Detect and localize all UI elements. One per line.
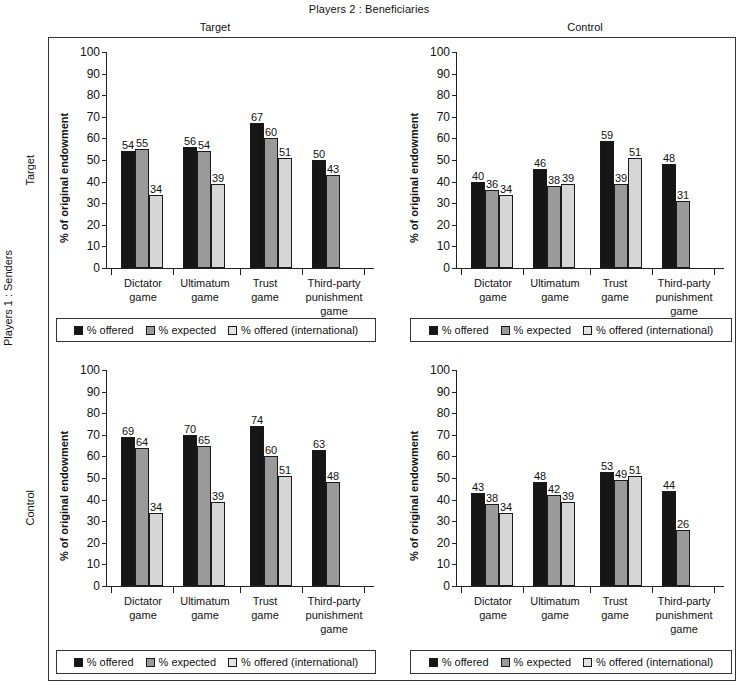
- bar-value-label: 70: [184, 423, 196, 435]
- bar: 40: [471, 182, 485, 268]
- bar-value-label: 34: [500, 183, 512, 195]
- bar: 34: [499, 513, 513, 586]
- legend-swatch-icon: [583, 326, 592, 335]
- bar: 64: [135, 448, 149, 586]
- bar: 39: [211, 502, 225, 586]
- legend-item: % offered (international): [228, 656, 358, 668]
- y-tick-label: 0: [93, 578, 100, 594]
- y-tick-label: 40: [87, 492, 100, 508]
- x-tick-mark: [302, 587, 303, 593]
- y-tick-label: 50: [437, 470, 450, 486]
- bar-set: 545534: [121, 52, 163, 268]
- x-tick-label-word: game: [601, 291, 629, 303]
- x-tick-mark: [364, 587, 365, 593]
- figure-side-title: Players 1 : Senders: [2, 250, 14, 346]
- y-tick-label: 50: [437, 152, 450, 168]
- column-header-target: Target: [120, 21, 310, 33]
- panel-control-target: % of original endowment10090807060504030…: [56, 360, 386, 660]
- y-tick-label: 10: [437, 556, 450, 572]
- y-tick-label: 90: [87, 66, 100, 82]
- legend-target-target: % offered% expected% offered (internatio…: [56, 318, 376, 342]
- bar: 42: [547, 495, 561, 586]
- bar: 63: [312, 450, 326, 586]
- legend-swatch-icon: [74, 326, 83, 335]
- legend-swatch-icon: [501, 658, 510, 667]
- y-tick-label: 80: [87, 405, 100, 421]
- bar-value-label: 50: [313, 148, 325, 160]
- plot-area: 1009080706050403020100545534565439676051…: [106, 52, 374, 277]
- legend-label: % offered (international): [596, 656, 713, 668]
- y-tick-label: 20: [437, 535, 450, 551]
- bar-groups: 5455345654396760515043: [107, 52, 374, 268]
- bar: 51: [278, 158, 292, 268]
- x-tick-mark: [461, 587, 462, 593]
- bar: 65: [197, 446, 211, 586]
- x-tick-label-word: game: [541, 291, 569, 303]
- x-tick-label-word: game: [320, 305, 348, 317]
- x-tick-mark: [714, 269, 715, 275]
- y-tick-label: 0: [93, 260, 100, 276]
- legend-swatch-icon: [583, 658, 592, 667]
- bar: 74: [250, 426, 264, 586]
- bar-value-label: 38: [548, 174, 560, 186]
- x-tick-mark: [364, 269, 365, 275]
- bar-value-label: 39: [562, 490, 574, 502]
- y-tick-label: 60: [437, 130, 450, 146]
- legend-label: % offered (international): [241, 324, 358, 336]
- legend-swatch-icon: [228, 658, 237, 667]
- row-header-control: Control: [24, 490, 36, 525]
- y-tick-label: 80: [437, 87, 450, 103]
- bar: 54: [197, 151, 211, 268]
- bar: 34: [149, 195, 163, 268]
- y-tick-label: 70: [87, 109, 100, 125]
- x-tick-label-word: Trust: [253, 595, 278, 607]
- bar: 34: [149, 513, 163, 586]
- bar: 38: [485, 504, 499, 586]
- bar-value-label: 74: [251, 414, 263, 426]
- x-tick-label-word: game: [129, 291, 157, 303]
- bar: 67: [250, 123, 264, 268]
- x-tick-label-word: Dictator: [474, 277, 512, 289]
- y-tick-label: 10: [437, 238, 450, 254]
- y-tick-label: 100: [430, 44, 450, 60]
- bar-groups: 4036344638395939514831: [457, 52, 724, 268]
- x-tick-mark: [240, 269, 241, 275]
- legend-label: % offered: [442, 656, 489, 668]
- y-tick-label: 80: [87, 87, 100, 103]
- bar-value-label: 48: [663, 152, 675, 164]
- y-tick-label: 60: [437, 448, 450, 464]
- y-tick-label: 100: [80, 44, 100, 60]
- y-tick-label: 60: [87, 448, 100, 464]
- x-tick-label-word: game: [670, 623, 698, 635]
- bar: 59: [600, 141, 614, 268]
- bar-value-label: 40: [472, 170, 484, 182]
- legend-label: % offered: [87, 324, 134, 336]
- bar: 56: [183, 147, 197, 268]
- plot-area: 1009080706050403020100433834484239534951…: [456, 370, 724, 595]
- y-tick-label: 100: [430, 362, 450, 378]
- x-tick-label-word: Dictator: [124, 277, 162, 289]
- legend-swatch-icon: [228, 326, 237, 335]
- y-tick-label: 10: [87, 556, 100, 572]
- y-axis-label: % of original endowment: [58, 90, 70, 265]
- y-tick-label: 90: [437, 66, 450, 82]
- bar-value-label: 31: [677, 189, 689, 201]
- bar-set: 4831: [662, 52, 690, 268]
- plot-area: 1009080706050403020100403634463839593951…: [456, 52, 724, 277]
- bar-value-label: 39: [212, 172, 224, 184]
- bar: 34: [499, 195, 513, 268]
- bar: 44: [662, 491, 676, 586]
- legend-item: % expected: [501, 656, 571, 668]
- legend-label: % offered (international): [596, 324, 713, 336]
- x-tick-mark: [652, 269, 653, 275]
- bar: 39: [211, 184, 225, 268]
- bar: 70: [183, 435, 197, 586]
- x-tick-mark: [590, 587, 591, 593]
- x-tick-label-word: game: [541, 609, 569, 621]
- bar-value-label: 53: [601, 460, 613, 472]
- bar-set: 696434: [121, 370, 163, 586]
- legend-item: % offered (international): [583, 656, 713, 668]
- legend-item: % offered: [74, 324, 134, 336]
- bar-value-label: 42: [548, 483, 560, 495]
- bar: 51: [278, 476, 292, 586]
